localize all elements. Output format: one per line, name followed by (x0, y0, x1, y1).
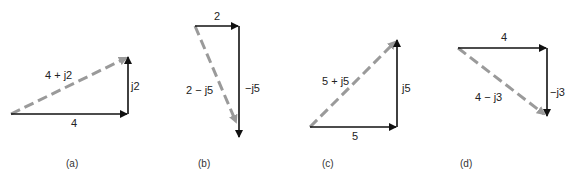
imag-label-c: j5 (401, 82, 411, 94)
sum-label-a: 4 + j2 (45, 69, 72, 81)
sum-label-c: 5 + j5 (322, 75, 349, 87)
panel-a: 4 + j2 j2 4 (a) (11, 57, 140, 169)
caption-b: (b) (198, 158, 210, 169)
caption-a: (a) (66, 158, 78, 169)
panel-d: 4 −j3 4 − j3 (d) (458, 31, 565, 169)
caption-c: (c) (322, 158, 334, 169)
sum-label-b: 2 − j5 (186, 84, 213, 96)
panel-c: 5 + j5 j5 5 (c) (310, 40, 411, 169)
imag-label-b: −j5 (245, 82, 260, 94)
resultant-arrow-b (195, 26, 236, 122)
real-label-c: 5 (352, 130, 358, 142)
real-label-d: 4 (501, 31, 507, 43)
real-label-b: 2 (214, 10, 220, 22)
resultant-arrow-d (458, 48, 544, 114)
sum-label-d: 4 − j3 (475, 91, 502, 103)
caption-d: (d) (460, 158, 472, 169)
resultant-arrow-a (11, 58, 126, 114)
panel-b: 2 −j5 2 − j5 (b) (186, 10, 260, 169)
imag-label-a: j2 (130, 80, 140, 92)
real-label-a: 4 (71, 117, 77, 129)
imag-label-d: −j3 (550, 86, 565, 98)
phasor-diagram-figure: 4 + j2 j2 4 (a) 2 −j5 2 − j5 (b) 5 + j5 … (0, 0, 578, 179)
